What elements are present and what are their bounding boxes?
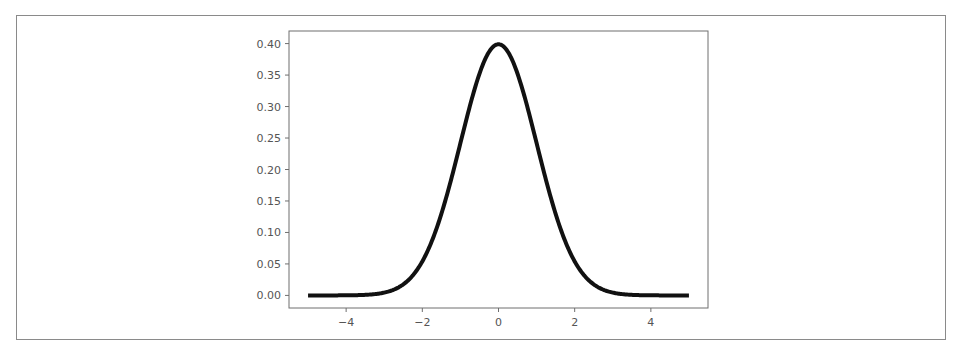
y-tick-label: 0.05	[257, 258, 282, 271]
x-tick-label: 2	[571, 316, 578, 329]
y-tick-label: 0.10	[257, 226, 282, 239]
y-tick-label: 0.20	[257, 164, 282, 177]
x-tick-label: −2	[414, 316, 430, 329]
y-axis: 0.000.050.100.150.200.250.300.350.40	[257, 38, 290, 303]
y-tick-label: 0.30	[257, 101, 282, 114]
x-tick-label: 0	[495, 316, 502, 329]
y-tick-label: 0.40	[257, 38, 282, 51]
x-tick-label: 4	[647, 316, 654, 329]
y-tick-label: 0.00	[257, 289, 282, 302]
plot-area	[289, 31, 708, 308]
chart: 0.000.050.100.150.200.250.300.350.40 −4−…	[0, 0, 965, 353]
x-axis: −4−2024	[338, 308, 654, 329]
y-tick-label: 0.25	[257, 132, 282, 145]
pdf-curve	[308, 44, 689, 295]
y-tick-label: 0.35	[257, 69, 282, 82]
x-tick-label: −4	[338, 316, 354, 329]
y-tick-label: 0.15	[257, 195, 282, 208]
